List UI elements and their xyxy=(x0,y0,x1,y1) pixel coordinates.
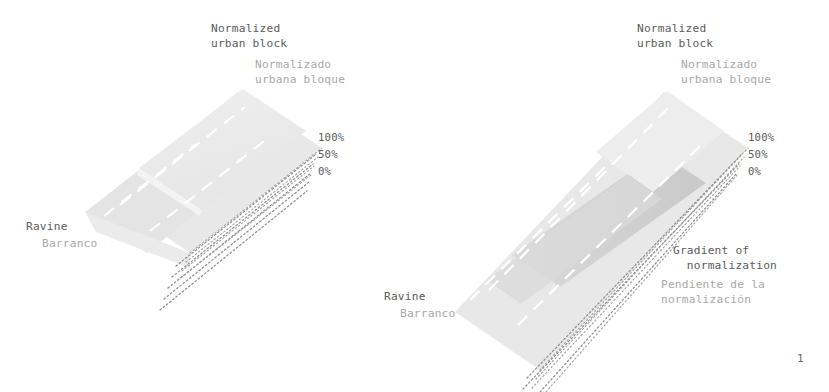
right-scale-label-0: 0% xyxy=(748,165,761,179)
left-heading-es: Normalizado urbana bloque xyxy=(255,58,345,88)
page-number: 1 xyxy=(797,352,804,367)
right-gradient-label-es: Pendiente de la normalización xyxy=(661,278,765,308)
right-heading-es: Normalizado urbana bloque xyxy=(681,58,771,88)
right-heading-en: Normalized urban block xyxy=(637,22,713,52)
left-ravine-label-es: Barranco xyxy=(42,237,97,252)
left-heading-en: Normalized urban block xyxy=(211,22,287,52)
left-scale-label-100: 100% xyxy=(318,131,344,145)
left-scale-label-50: 50% xyxy=(318,148,338,162)
right-scale-label-50: 50% xyxy=(748,148,768,162)
right-scale-label-100: 100% xyxy=(748,131,774,145)
right-diagram-geometry xyxy=(450,91,748,392)
right-ravine-label-es: Barranco xyxy=(400,307,455,322)
left-diagram-geometry xyxy=(85,89,322,310)
left-scale-label-0: 0% xyxy=(318,165,331,179)
left-ravine-label-en: Ravine xyxy=(26,220,68,235)
right-gradient-label-en: Gradient of normalization xyxy=(673,244,777,274)
right-ravine-label-en: Ravine xyxy=(384,290,426,305)
